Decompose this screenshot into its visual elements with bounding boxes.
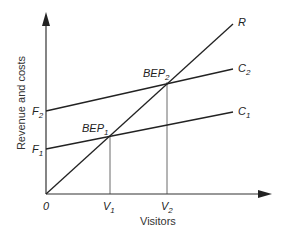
x-axis-arrow-icon xyxy=(258,190,272,198)
y-axis-arrow-icon xyxy=(42,12,50,26)
series-c2-line xyxy=(46,69,233,111)
label-bep2: BEP2 xyxy=(143,67,170,82)
label-v2: V2 xyxy=(161,200,173,215)
label-c2: C2 xyxy=(238,62,251,77)
label-c1: C1 xyxy=(238,105,250,120)
label-r: R xyxy=(238,16,246,28)
series-c1-line xyxy=(46,112,233,149)
label-bep1: BEP1 xyxy=(82,122,108,137)
label-origin: 0 xyxy=(43,200,50,212)
series-r-line xyxy=(46,24,233,194)
label-v1: V1 xyxy=(103,200,115,215)
break-even-chart: R C2 C1 BEP1 BEP2 F2 F1 0 V1 V2 Visitors… xyxy=(0,0,285,239)
label-f2: F2 xyxy=(32,105,44,120)
label-f1: F1 xyxy=(32,143,43,158)
x-axis-title: Visitors xyxy=(140,215,176,227)
y-axis-title: Revenue and costs xyxy=(15,55,27,150)
